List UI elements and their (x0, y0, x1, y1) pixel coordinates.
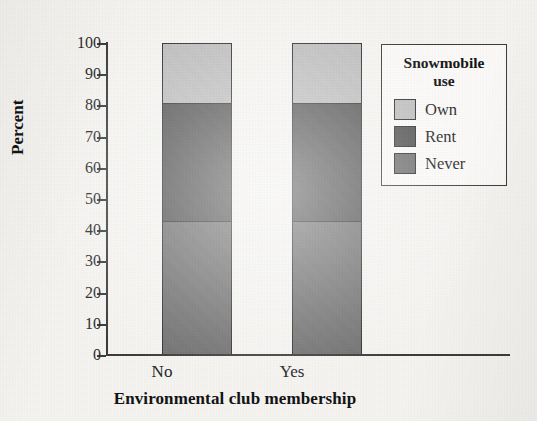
y-tick-label: 40 (85, 220, 101, 239)
plot-area: 0102030405060708090100 (106, 43, 426, 355)
x-tick-label-no: No (102, 362, 222, 382)
legend-label-rent: Rent (425, 127, 456, 146)
legend-title: Snowmobile use (390, 54, 498, 90)
x-axis-title: Environmental club membership (0, 389, 470, 409)
y-tick-label: 30 (85, 251, 101, 270)
legend-swatch-never (394, 153, 416, 174)
y-tick-label: 80 (85, 95, 101, 114)
stacked-bar-chart: Percent 0102030405060708090100 No Yes En… (0, 0, 537, 421)
legend-swatch-rent (394, 126, 416, 147)
y-tick-label: 70 (85, 127, 101, 146)
y-tick-label: 20 (85, 283, 101, 302)
bar-segment-own (163, 44, 231, 103)
bar-segment-never (163, 221, 231, 354)
x-tick-label-yes: Yes (232, 362, 352, 382)
legend-swatch-own (394, 99, 416, 120)
y-tick-label: 90 (85, 64, 101, 83)
legend-item-own: Own (394, 99, 498, 120)
legend-item-rent: Rent (394, 126, 498, 147)
bar-segment-own (293, 44, 361, 103)
legend-item-never: Never (394, 153, 498, 174)
bar-segment-never (293, 221, 361, 354)
legend-label-own: Own (425, 100, 457, 119)
bar-yes (292, 43, 362, 355)
bar-segment-rent (163, 103, 231, 221)
bar-segment-rent (293, 103, 361, 221)
legend-title-line-1: Snowmobile (390, 54, 498, 72)
legend-title-line-2: use (390, 72, 498, 90)
y-tick-label: 0 (93, 345, 101, 364)
y-tick-label: 100 (77, 33, 101, 52)
legend-label-never: Never (425, 154, 465, 173)
y-axis-title: Percent (8, 100, 28, 155)
y-axis-line (106, 42, 108, 356)
y-tick-label: 50 (85, 189, 101, 208)
x-axis-line (106, 354, 510, 356)
legend: Snowmobile use OwnRentNever (381, 44, 507, 186)
bar-no (162, 43, 232, 355)
legend-items: OwnRentNever (390, 99, 498, 174)
y-tick-label: 10 (85, 314, 101, 333)
y-tick-label: 60 (85, 158, 101, 177)
